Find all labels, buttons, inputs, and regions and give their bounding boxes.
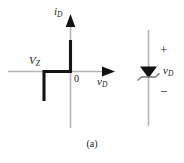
x-axis-label: vD: [97, 76, 107, 88]
origin-label: 0: [74, 74, 79, 84]
negative-terminal-label: −: [160, 85, 167, 98]
diode-triangle: [140, 67, 157, 79]
diode-voltage-label: vD: [163, 65, 173, 77]
breakdown-voltage-label: VZ: [29, 55, 40, 67]
zener-diode-icon: [138, 30, 160, 126]
zener-diode-characteristic-figure: iD VZ 0 vD vD + − (a): [0, 0, 184, 163]
axis-arrowheads-group: [66, 14, 115, 76]
characteristic-curve-group: [44, 40, 71, 101]
positive-terminal-label: +: [160, 43, 167, 56]
axes-group: [8, 22, 108, 128]
up-arrow-icon: [66, 14, 76, 27]
figure-caption: (a): [0, 138, 184, 149]
y-axis-label: iD: [54, 6, 62, 18]
right-arrow-icon: [102, 67, 115, 77]
iv-characteristic-curve: [44, 40, 71, 101]
